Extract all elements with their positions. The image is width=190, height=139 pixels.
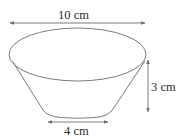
right-side-line: [113, 61, 145, 109]
height-label: 3 cm: [151, 81, 176, 94]
frustum-diagram: [0, 0, 190, 139]
top-rim-ellipse: [9, 28, 146, 81]
bottom-diameter-label: 4 cm: [64, 125, 89, 138]
top-diameter-label: 10 cm: [58, 9, 89, 22]
left-side-line: [13, 62, 43, 110]
bottom-base-curve: [43, 109, 113, 118]
